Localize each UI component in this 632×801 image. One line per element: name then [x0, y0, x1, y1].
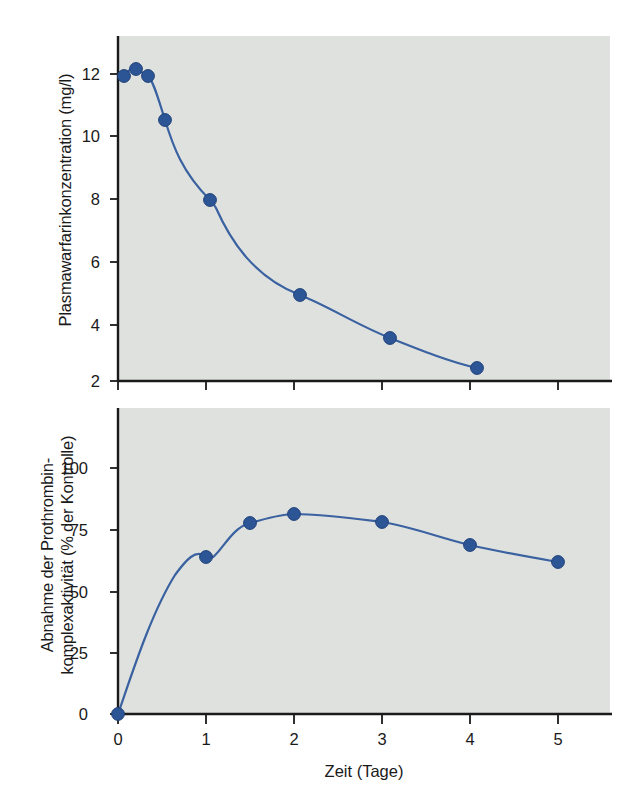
data-point: [288, 508, 301, 521]
data-point: [294, 289, 307, 302]
data-point: [142, 70, 155, 83]
data-point: [200, 551, 213, 564]
chart-panel-prothrombin: 100 75 50 25 0 0 1 2 3 4 5: [0, 400, 632, 801]
data-point: [471, 362, 484, 375]
data-point: [552, 556, 565, 569]
data-point: [112, 708, 125, 721]
figure-two-panel-chart: 12 10 8 6 4 2 Plasmawarfarinkonzentratio…: [0, 0, 632, 801]
x-axis-title: Zeit (Tage): [118, 762, 610, 781]
x-tick-marks: [118, 381, 558, 390]
y-axis-title-bottom: Abnahme der Prothrombin- komplexaktivitä…: [37, 390, 77, 720]
x-tick-marks: [118, 714, 558, 724]
x-tick-label: 1: [191, 730, 221, 749]
data-point: [159, 114, 172, 127]
x-tick-label: 5: [543, 730, 573, 749]
x-tick-label: 3: [367, 730, 397, 749]
x-tick-label: 4: [455, 730, 485, 749]
data-point: [384, 332, 397, 345]
x-tick-label: 2: [279, 730, 309, 749]
data-point: [244, 517, 257, 530]
data-point: [130, 63, 143, 76]
plot-background: [118, 408, 610, 714]
plot-background: [118, 36, 610, 381]
y-axis-title-bottom-line2: komplexaktivität (% der Kontrolle): [57, 390, 77, 720]
data-point: [118, 70, 131, 83]
y-axis-title-bottom-line1: Abnahme der Prothrombin-: [38, 458, 56, 652]
y-axis-title-top: Plasmawarfarinkonzentration (mg/l): [55, 20, 75, 380]
chart-panel-plasma-warfarin: 12 10 8 6 4 2 Plasmawarfarinkonzentratio…: [0, 0, 632, 400]
prothrombin-plot: [0, 400, 632, 801]
x-tick-label: 0: [103, 730, 133, 749]
data-point: [376, 516, 389, 529]
data-point: [464, 539, 477, 552]
data-point: [204, 194, 217, 207]
